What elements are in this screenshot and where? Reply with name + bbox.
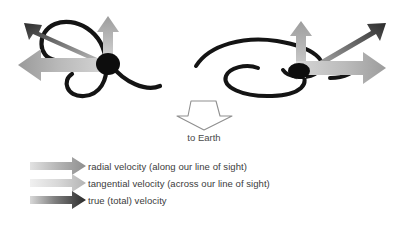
legend-arrows: [30, 157, 86, 209]
legend-true-arrow: [30, 191, 86, 209]
right-galaxy: [196, 21, 386, 96]
legend-item-tangential-label: tangential velocity (across our line of …: [88, 178, 270, 189]
right-galaxy-nucleus: [288, 63, 310, 79]
diagram-canvas: [0, 0, 408, 226]
legend-tangential-arrow: [30, 174, 86, 192]
velocity-vectors-diagram: to Earth radial velocity (along our line…: [0, 0, 408, 226]
legend-item-true-label: true (total) velocity: [88, 195, 167, 206]
left-galaxy-nucleus: [96, 53, 120, 75]
legend-item-radial-label: radial velocity (along our line of sight…: [88, 161, 247, 172]
to-earth-arrow-icon: [177, 101, 232, 130]
to-earth-label: to Earth: [172, 132, 236, 143]
left-galaxy: [18, 16, 160, 96]
legend-radial-arrow: [30, 157, 86, 175]
right-radial-velocity-arrow: [296, 52, 386, 84]
left-radial-velocity-arrow: [18, 49, 108, 81]
